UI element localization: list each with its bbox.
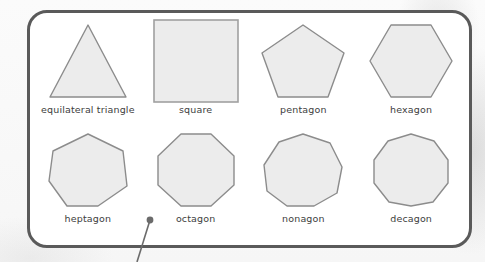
shape-cell-pentagon: pentagon (250, 19, 358, 130)
heptagon-icon (42, 130, 134, 210)
shape-cell-square: square (142, 19, 250, 130)
shape-grid: equilateral triangle square pentagon (30, 13, 469, 245)
shape-label-pentagon: pentagon (280, 105, 327, 115)
square-icon (150, 19, 242, 103)
shape-label-heptagon: heptagon (65, 214, 112, 224)
shape-cell-nonagon: nonagon (250, 130, 358, 241)
shape-label-nonagon: nonagon (282, 214, 325, 224)
shape-label-hexagon: hexagon (390, 105, 432, 115)
shape-label-triangle: equilateral triangle (41, 105, 135, 115)
octagon-svg (157, 133, 235, 207)
decagon-svg (371, 133, 451, 207)
shape-cell-decagon: decagon (357, 130, 465, 241)
shape-cell-octagon: octagon (142, 130, 250, 241)
nonagon-icon (257, 130, 349, 210)
pentagon-svg (261, 24, 345, 98)
shape-label-decagon: decagon (390, 214, 432, 224)
pentagon-icon (257, 19, 349, 103)
shape-label-octagon: octagon (176, 214, 216, 224)
shape-cell-triangle: equilateral triangle (34, 19, 142, 130)
octagon-icon (150, 130, 242, 210)
nonagon-svg (263, 133, 343, 207)
shape-cell-heptagon: heptagon (34, 130, 142, 241)
shape-gallery-frame: equilateral triangle square pentagon (27, 10, 472, 248)
triangle-icon (42, 19, 134, 103)
square-svg (153, 19, 239, 103)
shape-cell-hexagon: hexagon (357, 19, 465, 130)
hexagon-svg (369, 24, 453, 98)
heptagon-svg (48, 133, 128, 207)
triangle-svg (48, 23, 128, 99)
shape-label-square: square (179, 105, 212, 115)
decagon-icon (365, 130, 457, 210)
hexagon-icon (365, 19, 457, 103)
